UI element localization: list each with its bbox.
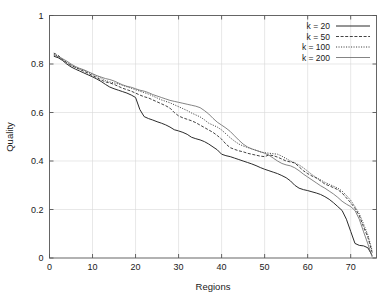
x-tick-label: 10 (88, 262, 98, 272)
x-tick-label: 20 (131, 262, 141, 272)
legend-label-1: k = 50 (307, 32, 331, 42)
x-tick-label: 40 (217, 262, 227, 272)
x-tick-label: 0 (47, 262, 52, 272)
legend: k = 20k = 50k = 100k = 200 (302, 21, 370, 63)
series-line-2 (54, 54, 372, 250)
chart-figure: 010203040506070 00.20.40.60.81 Regions Q… (0, 0, 390, 298)
series-line-3 (54, 55, 372, 257)
legend-label-2: k = 100 (302, 42, 330, 52)
series-group (54, 53, 372, 257)
x-axis-title: Regions (196, 281, 231, 292)
y-tick-label: 1 (38, 11, 43, 21)
legend-label-3: k = 200 (302, 53, 330, 63)
y-tick-label: 0.4 (31, 156, 44, 166)
x-tick-label: 70 (346, 262, 356, 272)
y-axis-title: Quality (4, 122, 15, 152)
x-tick-label: 50 (260, 262, 270, 272)
x-tick-labels: 010203040506070 (47, 262, 356, 272)
y-tick-labels: 00.20.40.60.81 (31, 11, 44, 264)
series-line-0 (54, 56, 372, 255)
x-tick-label: 60 (303, 262, 313, 272)
line-chart: 010203040506070 00.20.40.60.81 Regions Q… (0, 0, 390, 298)
y-tick-label: 0.6 (31, 108, 44, 118)
legend-label-0: k = 20 (307, 21, 331, 31)
y-tick-label: 0.8 (31, 59, 44, 69)
y-tick-label: 0.2 (31, 205, 44, 215)
y-tick-label: 0 (38, 253, 43, 263)
series-line-1 (54, 53, 372, 253)
x-tick-label: 30 (174, 262, 184, 272)
